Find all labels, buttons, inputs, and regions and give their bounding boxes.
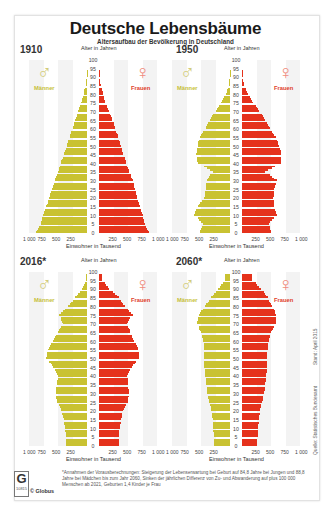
bar-female [242,443,257,445]
bar-female [99,357,139,359]
bar-male [204,354,230,356]
bar-male [70,303,87,305]
year-label: 2060* [176,256,202,267]
bar-male [204,362,230,364]
bar-female [99,145,121,147]
bar-male [201,228,230,230]
bar-female [242,178,274,180]
female-symbol-icon: ♀ [278,62,293,82]
bar-female [242,131,272,133]
bar-male [205,371,230,373]
age-tick: 5 [86,221,100,227]
bar-male [206,185,230,187]
age-tick: 45 [229,152,243,158]
bar-female [242,98,251,100]
age-tick: 95 [229,278,243,284]
bar-male [213,427,230,429]
bar-female [99,340,134,342]
x-axis-title: Einwohner in Tausend [66,456,121,462]
bar-female [242,183,276,185]
bar-male [65,309,87,311]
bar-female [99,284,106,286]
age-tick: 5 [229,434,243,440]
bar-female [99,133,117,135]
age-tick: 30 [229,391,243,397]
bar-male [201,221,230,223]
age-tick: 50 [86,144,100,150]
bar-male [204,166,230,168]
age-tick: 10 [86,213,100,219]
bar-female [99,418,121,420]
age-tick: 100 [229,57,243,63]
stand-date: Stand: April 2015 [313,328,318,365]
bar-female [242,226,270,228]
age-tick: 5 [229,221,243,227]
bar-female [242,397,263,399]
age-tick: 0 [229,443,243,449]
bar-female [242,197,273,199]
bar-male [36,231,87,233]
bar-male [46,357,87,359]
bar-male [197,321,230,323]
bar-female [242,366,267,368]
bar-female [242,110,259,112]
bar-female [99,387,128,389]
bar-male [201,331,230,333]
bar-female [242,444,257,446]
bar-male [204,352,230,354]
bar-male [209,401,230,403]
bar-male [206,186,230,188]
age-tick: 70 [229,109,243,115]
bar-female [242,179,277,181]
bar-female [242,295,266,297]
bar-male [59,169,87,171]
x-tick: 250 [109,236,117,242]
x-tick: 1 000 [152,449,165,455]
bar-male [62,413,87,415]
bar-female [242,114,262,116]
bar-female [99,226,146,228]
bar-female [99,396,129,398]
bar-male [59,404,87,406]
bar-female [99,136,118,138]
bar-male [200,202,230,204]
x-tick: 250 [67,236,75,242]
bar-male [204,357,230,359]
bar-male [213,114,230,116]
bar-female [242,439,257,441]
bar-female [242,160,281,162]
bar-male [56,371,87,373]
bar-male [213,418,230,420]
bar-female [99,205,140,207]
bar-female [99,408,124,410]
bar-female [242,423,258,425]
bar-female [242,300,269,302]
bar-male [194,214,230,216]
bar-female [242,382,265,384]
bar-male [202,336,230,338]
bar-female [99,174,131,176]
bar-female [99,413,122,415]
bar-male [66,434,87,436]
bar-male [209,300,230,302]
bar-female [99,432,119,434]
bar-female [99,317,130,319]
age-tick: 75 [86,100,100,106]
bar-male [206,127,230,129]
bar-female [242,143,278,145]
bar-female [242,436,258,438]
bar-male [198,205,230,207]
bar-female [242,136,276,138]
age-tick: 25 [229,400,243,406]
bar-female [99,345,137,347]
bar-female [242,205,274,207]
bar-male [58,331,87,333]
bar-female [242,117,264,119]
bar-female [99,436,119,438]
bar-female [99,319,129,321]
bar-female [99,150,122,152]
age-axis-title: Alter in Jahren [224,257,259,263]
bar-female [99,364,133,366]
male-symbol-icon: ♂ [37,274,52,294]
bar-female [242,176,272,178]
